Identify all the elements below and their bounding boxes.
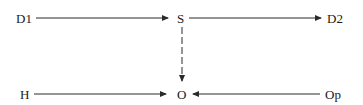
node-s: S: [177, 12, 184, 25]
diagram-canvas: D1 S D2 H O Op: [0, 0, 363, 105]
node-h: H: [20, 88, 29, 101]
node-d2: D2: [327, 12, 343, 25]
node-o: O: [177, 88, 186, 101]
node-d1: D1: [16, 12, 32, 25]
node-op: Op: [325, 88, 341, 101]
